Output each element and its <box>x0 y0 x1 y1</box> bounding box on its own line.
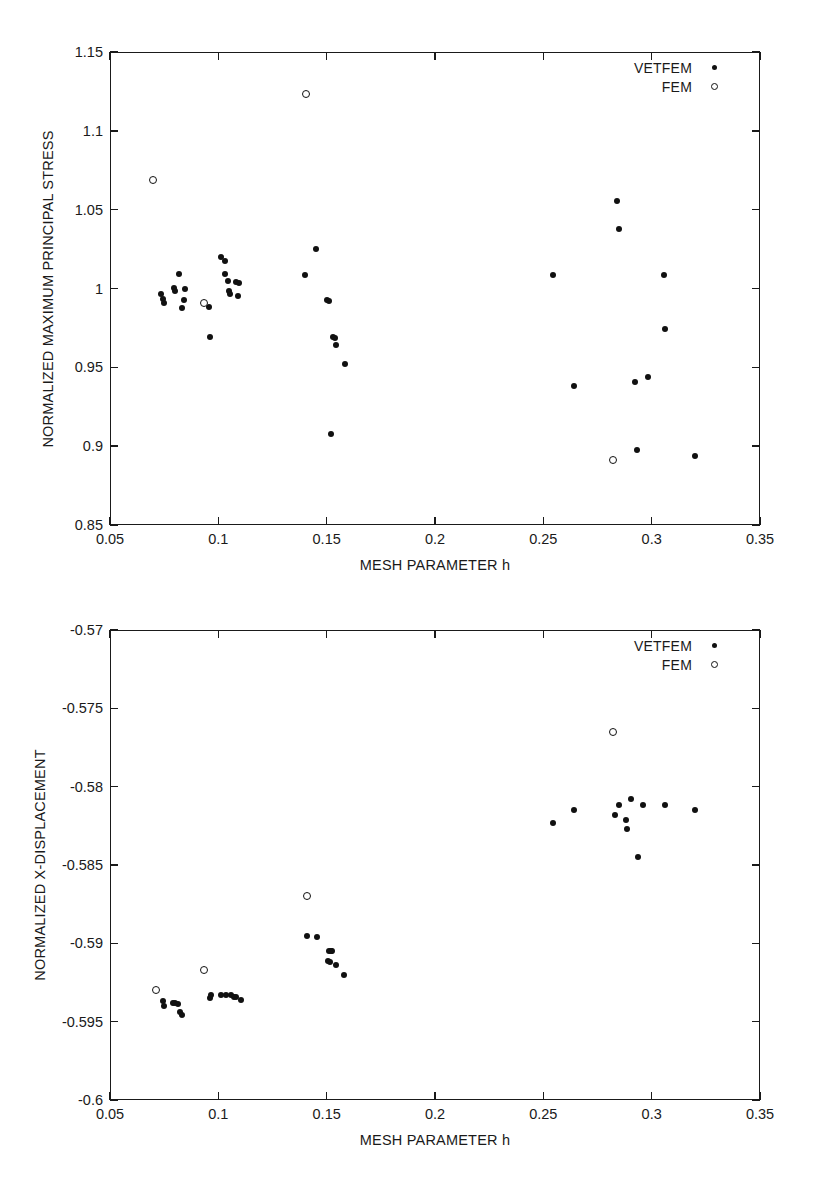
y-tick-label: 0.95 <box>75 359 103 375</box>
legend-displacement: VETFEM FEM <box>610 636 736 674</box>
y-tick-mark <box>110 1021 118 1022</box>
open-circle-icon <box>711 661 718 668</box>
y-tick-mark <box>110 943 118 944</box>
y-tick-mark <box>110 445 118 446</box>
data-point-vetfem <box>222 271 228 277</box>
data-point-vetfem <box>624 826 630 832</box>
data-point-vetfem <box>179 305 185 311</box>
y-tick-mark <box>752 786 760 787</box>
data-point-vetfem <box>628 796 634 802</box>
data-point-vetfem <box>238 997 244 1003</box>
data-point-vetfem <box>329 948 335 954</box>
y-tick-mark <box>110 786 118 787</box>
filled-circle-icon <box>712 65 717 70</box>
legend-stress: VETFEM FEM <box>610 58 736 96</box>
y-tick-mark <box>752 130 760 131</box>
data-point-vetfem <box>550 272 556 278</box>
x-tick-mark <box>326 1092 327 1100</box>
data-point-fem <box>609 456 617 464</box>
data-point-vetfem <box>207 334 213 340</box>
legend-label-vetfem: VETFEM <box>610 60 692 76</box>
data-point-fem <box>609 728 617 736</box>
y-tick-label: 1.1 <box>83 123 103 139</box>
data-point-vetfem <box>632 379 638 385</box>
y-tick-label: 0.9 <box>83 438 103 454</box>
x-tick-mark <box>543 517 544 525</box>
data-point-fem <box>200 299 208 307</box>
x-tick-mark <box>434 52 435 60</box>
y-tick-mark <box>752 51 760 52</box>
data-point-vetfem <box>181 297 187 303</box>
data-point-vetfem <box>333 962 339 968</box>
x-tick-mark <box>543 630 544 638</box>
legend-label-fem: FEM <box>610 657 692 673</box>
x-tick-mark <box>759 52 760 60</box>
chart-normalized-max-principal-stress: 0.050.10.150.20.250.30.350.850.90.9511.0… <box>0 0 817 600</box>
x-tick-mark <box>759 630 760 638</box>
x-tick-label: 0.3 <box>642 531 662 547</box>
data-point-vetfem <box>571 383 577 389</box>
data-point-vetfem <box>692 453 698 459</box>
x-tick-mark <box>434 630 435 638</box>
legend-label-vetfem: VETFEM <box>610 638 692 654</box>
legend-item-fem: FEM <box>610 655 736 674</box>
data-point-vetfem <box>616 802 622 808</box>
y-tick-mark <box>752 445 760 446</box>
data-point-vetfem <box>640 802 646 808</box>
y-tick-mark <box>752 288 760 289</box>
data-point-vetfem <box>342 361 348 367</box>
data-point-vetfem <box>614 198 620 204</box>
x-tick-label: 0.1 <box>208 1106 228 1122</box>
data-point-vetfem <box>175 1001 181 1007</box>
x-tick-label: 0.25 <box>529 531 557 547</box>
legend-marker-fem <box>692 83 736 90</box>
data-point-vetfem <box>662 326 668 332</box>
data-point-vetfem <box>314 934 320 940</box>
y-tick-label: 1.05 <box>75 202 103 218</box>
y-tick-mark <box>110 51 118 52</box>
y-tick-label: 0.85 <box>75 517 103 533</box>
y-tick-label: -0.6 <box>78 1092 103 1108</box>
plot-frame-displacement <box>110 630 760 1100</box>
data-point-vetfem <box>236 280 242 286</box>
x-axis-title-stress: MESH PARAMETER h <box>360 557 510 573</box>
data-point-vetfem <box>225 278 231 284</box>
data-point-vetfem <box>235 293 241 299</box>
x-tick-label: 0.1 <box>208 531 228 547</box>
x-tick-mark <box>651 517 652 525</box>
plot-area-stress: 0.050.10.150.20.250.30.350.850.90.9511.0… <box>0 0 817 600</box>
y-tick-mark <box>110 367 118 368</box>
data-point-vetfem <box>302 272 308 278</box>
data-point-vetfem <box>645 374 651 380</box>
x-tick-label: 0.35 <box>746 1106 774 1122</box>
y-axis-title-stress: NORMALIZED MAXIMUM PRINCIPAL STRESS <box>40 130 56 447</box>
data-point-vetfem <box>176 271 182 277</box>
data-point-vetfem <box>550 820 556 826</box>
y-tick-label: -0.585 <box>62 857 103 873</box>
y-tick-mark <box>110 524 118 525</box>
data-point-vetfem <box>341 972 347 978</box>
x-tick-mark <box>543 1092 544 1100</box>
data-point-vetfem <box>692 807 698 813</box>
y-tick-label: -0.59 <box>70 935 103 951</box>
y-tick-mark <box>110 209 118 210</box>
y-tick-mark <box>110 708 118 709</box>
data-point-vetfem <box>635 854 641 860</box>
legend-marker-vetfem <box>692 65 736 70</box>
y-axis-title-displacement: NORMALIZED X-DISPLACEMENT <box>32 749 48 980</box>
y-tick-mark <box>752 209 760 210</box>
legend-item-vetfem: VETFEM <box>610 58 736 77</box>
x-tick-label: 0.35 <box>746 531 774 547</box>
y-tick-mark <box>752 864 760 865</box>
data-point-vetfem <box>328 431 334 437</box>
data-point-vetfem <box>662 802 668 808</box>
data-point-vetfem <box>313 246 319 252</box>
x-tick-mark <box>218 517 219 525</box>
data-point-vetfem <box>208 992 214 998</box>
y-tick-mark <box>110 130 118 131</box>
x-tick-mark <box>434 1092 435 1100</box>
x-tick-mark <box>109 52 110 60</box>
data-point-fem <box>303 892 311 900</box>
x-tick-label: 0.2 <box>425 1106 445 1122</box>
y-tick-mark <box>752 1021 760 1022</box>
